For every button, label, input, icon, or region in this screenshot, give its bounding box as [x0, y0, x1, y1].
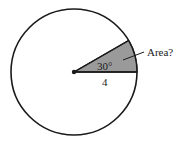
area-callout-label: Area? [147, 46, 173, 58]
center-point [72, 70, 76, 74]
angle-label: 30° [97, 60, 112, 72]
sector-diagram: 30° 4 Area? [0, 0, 182, 143]
radius-label: 4 [102, 76, 108, 88]
